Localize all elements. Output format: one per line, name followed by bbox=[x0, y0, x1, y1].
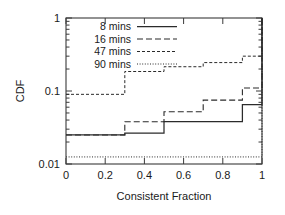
cdf-chart-figure: 10.10.01 00.20.40.60.81 CDF Consistent F… bbox=[0, 0, 285, 215]
y-tick-label: 0.01 bbox=[39, 158, 60, 170]
x-tick-label: 0.4 bbox=[137, 169, 152, 181]
chart-legend: 8 mins 16 mins 47 mins 90 mins bbox=[94, 20, 177, 70]
x-tick-label: 0.6 bbox=[176, 169, 191, 181]
x-tick-label: 0.2 bbox=[98, 169, 113, 181]
x-tick-label: 1 bbox=[259, 169, 265, 181]
legend-line-swatches bbox=[137, 27, 177, 65]
legend-label-2: 47 mins bbox=[94, 45, 131, 57]
x-axis-title: Consistent Fraction bbox=[117, 190, 212, 202]
y-axis-title: CDF bbox=[14, 79, 26, 102]
y-tick-label: 1 bbox=[54, 12, 60, 24]
x-tick-label: 0 bbox=[63, 169, 69, 181]
legend-label-3: 90 mins bbox=[94, 58, 131, 70]
legend-label-0: 8 mins bbox=[100, 20, 131, 32]
chart-canvas: 10.10.01 00.20.40.60.81 CDF Consistent F… bbox=[0, 0, 285, 215]
y-axis-tick-labels: 10.10.01 bbox=[39, 12, 60, 170]
x-tick-label: 0.8 bbox=[215, 169, 230, 181]
y-tick-label: 0.1 bbox=[45, 85, 60, 97]
legend-label-1: 16 mins bbox=[94, 33, 131, 45]
x-axis-tick-labels: 00.20.40.60.81 bbox=[63, 169, 265, 181]
